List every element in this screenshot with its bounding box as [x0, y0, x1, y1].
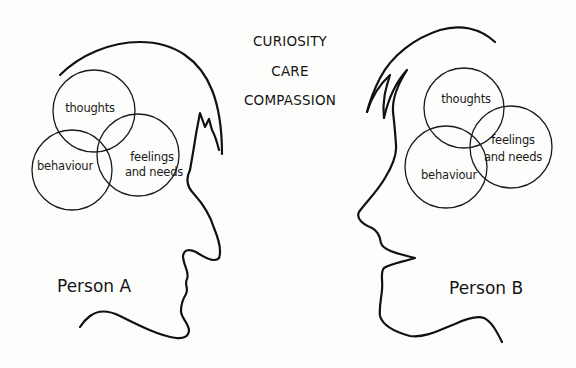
person-b-thoughts-label: thoughts — [441, 93, 491, 106]
profiles-illustration — [0, 0, 576, 368]
person-b-feelings-label-line1: feelings — [491, 134, 535, 147]
person-a-thoughts-label: thoughts — [65, 102, 115, 115]
diagram-canvas: CURIOSITY CARE COMPASSION thoughts feeli… — [0, 0, 576, 368]
value-curiosity: CURIOSITY — [253, 33, 327, 49]
person-a-feelings-label-line2: and needs — [125, 166, 183, 179]
person-b-label: Person B — [449, 278, 523, 298]
value-compassion: COMPASSION — [244, 92, 336, 108]
person-b-behaviour-label: behaviour — [421, 169, 477, 182]
value-care: CARE — [271, 63, 308, 79]
person-a-label: Person A — [57, 276, 131, 296]
person-a-feelings-label-line1: feelings — [130, 151, 174, 164]
person-a-venn — [32, 70, 179, 210]
person-b-feelings-label-line2: and needs — [484, 151, 542, 164]
person-a-behaviour-label: behaviour — [37, 160, 93, 173]
